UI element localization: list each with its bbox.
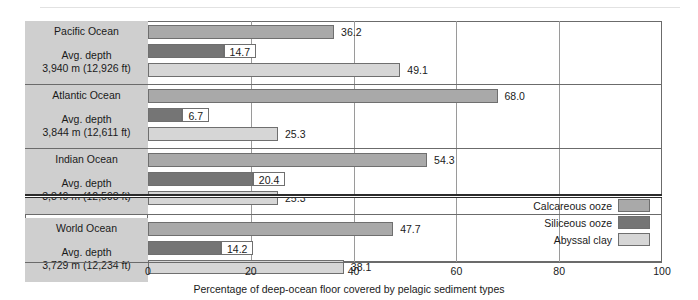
legend-swatch [618, 233, 650, 246]
bar-sili [148, 108, 182, 122]
chart-legend: Calcareous oozeSiliceous oozeAbyssal cla… [500, 198, 650, 249]
bar-value-label: 36.2 [337, 25, 361, 39]
category-label-atlantic-ocean: Atlantic OceanAvg. depth3,844 m (12,611 … [25, 85, 148, 149]
bar-group-pacific-ocean: 36.214.749.1 [148, 21, 662, 85]
legend-item: Calcareous ooze [500, 198, 650, 213]
avg-depth-label: Avg. depth [61, 49, 111, 62]
ocean-name: Atlantic Ocean [52, 89, 120, 102]
category-label-pacific-ocean: Pacific OceanAvg. depth3,940 m (12,926 f… [25, 21, 148, 85]
bar-value-label: 20.4 [253, 172, 285, 186]
x-tick-20: 20 [245, 265, 257, 277]
scan-artifact-line [40, 7, 680, 8]
bar-clay [148, 127, 278, 141]
bar-group-atlantic-ocean: 68.06.725.3 [148, 85, 662, 149]
avg-depth-label: Avg. depth [61, 177, 111, 190]
ocean-name: Indian Ocean [55, 153, 117, 166]
bar-calc [148, 25, 334, 39]
x-tick-80: 80 [553, 265, 565, 277]
bar-sili [148, 172, 253, 186]
category-label-world-ocean: World OceanAvg. depth3,729 m (12,234 ft) [25, 218, 148, 282]
bar-value-label: 14.2 [221, 241, 253, 255]
x-tick-40: 40 [348, 265, 360, 277]
x-tick-100: 100 [653, 265, 671, 277]
bar-value-label: 47.7 [396, 222, 420, 236]
legend-swatch [618, 216, 650, 229]
bar-value-label: 6.7 [182, 108, 209, 122]
legend-label: Abyssal clay [554, 234, 612, 246]
category-label-column: Pacific OceanAvg. depth3,940 m (12,926 f… [25, 21, 148, 262]
bar-sili [148, 44, 224, 58]
bar-value-label: 54.3 [430, 153, 454, 167]
ocean-name: World Ocean [56, 222, 117, 235]
x-axis-caption: Percentage of deep-ocean floor covered b… [0, 283, 698, 295]
avg-depth-value: 3,844 m (12,611 ft) [43, 126, 131, 139]
legend-item: Abyssal clay [500, 232, 650, 247]
avg-depth-value: 3,940 m (12,926 ft) [42, 62, 131, 75]
bar-sili [148, 241, 221, 255]
legend-swatch [618, 199, 650, 212]
x-tick-60: 60 [451, 265, 463, 277]
ocean-name: Pacific Ocean [54, 25, 119, 38]
category-label-indian-ocean: Indian OceanAvg. depth3,840 m (12,598 ft… [25, 149, 148, 215]
bar-value-label: 25.3 [281, 127, 305, 141]
avg-depth-label: Avg. depth [61, 246, 111, 259]
avg-depth-label: Avg. depth [61, 113, 111, 126]
sediment-bar-chart-figure: Pacific OceanAvg. depth3,940 m (12,926 f… [0, 0, 698, 300]
bar-clay [148, 63, 400, 77]
bar-calc [148, 89, 498, 103]
bar-value-label: 14.7 [224, 44, 256, 58]
bar-calc [148, 153, 427, 167]
legend-label: Calcareous ooze [533, 200, 612, 212]
bar-calc [148, 222, 393, 236]
x-axis-line [25, 262, 662, 263]
bar-value-label: 68.0 [501, 89, 525, 103]
legend-item: Siliceous ooze [500, 215, 650, 230]
x-tick-0: 0 [145, 265, 151, 277]
legend-label: Siliceous ooze [544, 217, 612, 229]
bar-value-label: 49.1 [403, 63, 427, 77]
